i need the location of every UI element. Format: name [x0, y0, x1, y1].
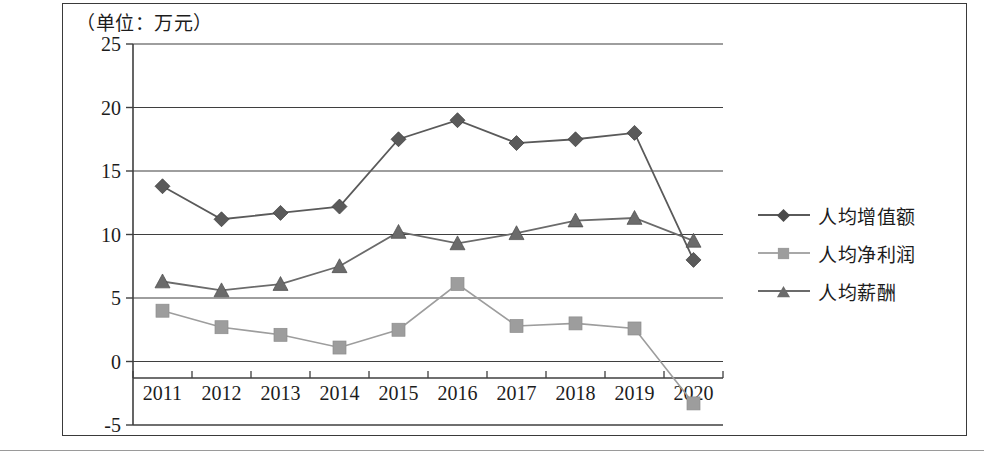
y-tick-label: -5: [104, 414, 121, 436]
screenshot-root: （单位：万元） -5051015202520112012201320142015…: [0, 0, 984, 461]
data-point-square: [451, 278, 464, 291]
data-point-square: [333, 341, 346, 354]
data-point-square: [628, 322, 641, 335]
data-point-square: [274, 328, 287, 341]
data-point-diamond: [509, 136, 524, 151]
data-point-triangle: [686, 233, 701, 247]
data-point-diamond: [450, 113, 465, 128]
data-point-triangle: [155, 274, 170, 288]
triangle-icon: [758, 281, 810, 301]
y-tick-label: 10: [101, 224, 121, 246]
data-point-diamond: [273, 205, 288, 220]
x-tick-label: 2018: [556, 382, 596, 404]
data-point-diamond: [568, 132, 583, 147]
data-point-triangle: [391, 224, 406, 238]
y-tick-label: 25: [101, 33, 121, 55]
series-line-0: [163, 120, 694, 260]
page-divider: [0, 450, 984, 451]
data-point-square: [392, 323, 405, 336]
y-tick-label: 5: [111, 287, 121, 309]
x-tick-label: 2017: [497, 382, 537, 404]
x-tick-label: 2019: [615, 382, 655, 404]
chart-legend: 人均增值额 人均净利润 人均薪酬: [758, 196, 958, 310]
data-point-diamond: [627, 125, 642, 140]
legend-item-1: 人均净利润: [758, 234, 958, 272]
x-tick-label: 2015: [379, 382, 419, 404]
data-point-square: [215, 321, 228, 334]
legend-item-2: 人均薪酬: [758, 272, 958, 310]
series-line-2: [163, 218, 694, 290]
y-tick-label: 0: [111, 351, 121, 373]
data-point-triangle: [332, 259, 347, 273]
y-tick-label: 20: [101, 97, 121, 119]
legend-label-2: 人均薪酬: [810, 278, 896, 305]
legend-label-0: 人均增值额: [810, 202, 916, 229]
legend-label-1: 人均净利润: [810, 240, 916, 267]
y-tick-label: 15: [101, 160, 121, 182]
x-tick-label: 2013: [261, 382, 301, 404]
data-point-square: [569, 317, 582, 330]
diamond-icon: [758, 205, 810, 225]
data-point-square: [687, 397, 700, 410]
data-point-diamond: [214, 212, 229, 227]
x-tick-label: 2016: [438, 382, 478, 404]
data-point-triangle: [273, 277, 288, 291]
data-point-square: [510, 319, 523, 332]
data-point-square: [156, 304, 169, 317]
x-tick-label: 2014: [320, 382, 360, 404]
data-point-diamond: [155, 179, 170, 194]
x-tick-label: 2012: [202, 382, 242, 404]
square-icon: [758, 243, 810, 263]
x-tick-label: 2011: [143, 382, 182, 404]
data-point-diamond: [686, 252, 701, 267]
legend-item-0: 人均增值额: [758, 196, 958, 234]
